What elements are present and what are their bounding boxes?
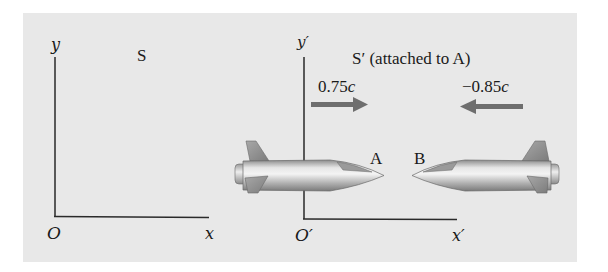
s-prime-origin-label: O′ xyxy=(295,227,313,244)
frame-s-axes xyxy=(54,57,209,218)
velocity-b-unit: c xyxy=(501,77,509,96)
s-prime-x-axis-label: x′ xyxy=(452,228,465,244)
velocity-b-value: −0.85 xyxy=(462,77,501,96)
s-x-axis xyxy=(54,217,209,218)
velocity-a-unit: c xyxy=(348,77,356,96)
s-x-axis-label: x xyxy=(205,226,214,242)
rocket-a-icon xyxy=(235,141,384,193)
s-prime-y-axis-label: y′ xyxy=(297,35,309,50)
rocket-b-icon xyxy=(412,141,559,193)
rocket-a-label: A xyxy=(370,150,382,167)
velocity-a-label: 0.75c xyxy=(318,78,355,95)
frame-s-title: S xyxy=(137,47,146,64)
rocket-b-label: B xyxy=(414,150,425,167)
frame-s-prime-title: S′ (attached to A) xyxy=(352,50,470,67)
s-prime-x-axis xyxy=(303,219,457,220)
s-y-axis-label: y xyxy=(51,37,60,53)
arrow-right-icon xyxy=(311,97,368,112)
velocity-b-label: −0.85c xyxy=(462,78,509,95)
arrow-left-icon xyxy=(460,99,523,114)
s-origin-label: O xyxy=(47,225,61,242)
velocity-a-value: 0.75 xyxy=(318,77,348,96)
